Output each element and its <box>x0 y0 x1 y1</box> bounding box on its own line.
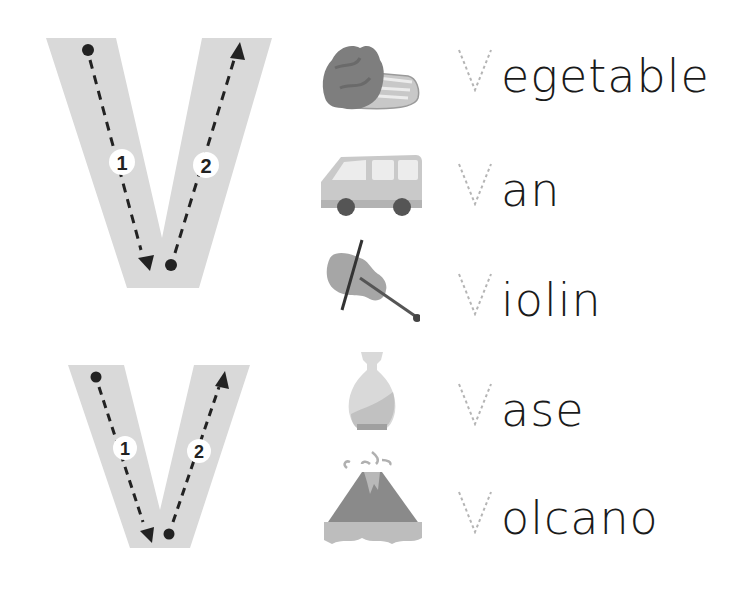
word-vegetable: egetable <box>457 48 710 99</box>
word-remainder: ase <box>501 387 584 433</box>
start-dot-icon <box>165 259 177 271</box>
word-volcano: olcano <box>457 490 659 541</box>
dotted-letter-v <box>457 272 495 316</box>
stroke-number-1: 1 <box>120 439 130 459</box>
word-remainder: olcano <box>501 495 659 541</box>
vase-icon <box>343 352 401 432</box>
start-dot-icon <box>91 372 102 383</box>
word-remainder: an <box>501 167 560 213</box>
stroke-number-2: 2 <box>194 442 204 462</box>
vegetable-icon <box>320 38 420 113</box>
wheel-icon <box>393 198 411 216</box>
van-icon <box>316 152 424 217</box>
dotted-letter-v <box>457 490 495 534</box>
volcano-icon <box>322 450 424 545</box>
small-tracing-letter-v: 1 2 <box>66 365 256 550</box>
large-tracing-letter-v: 1 2 <box>44 38 276 290</box>
start-dot-icon <box>82 44 94 56</box>
stroke-number-2: 2 <box>200 155 211 177</box>
violin-icon <box>320 238 420 323</box>
word-remainder: egetable <box>501 53 710 99</box>
word-violin: iolin <box>457 272 602 323</box>
letter-v-shape <box>46 38 272 288</box>
word-remainder: iolin <box>501 277 602 323</box>
stroke-number-1: 1 <box>116 152 127 174</box>
word-vase: ase <box>457 382 584 433</box>
dotted-letter-v <box>457 382 495 426</box>
word-van: an <box>457 162 560 213</box>
letter-v-shape <box>68 365 250 548</box>
wheel-icon <box>337 198 355 216</box>
start-dot-icon <box>164 529 175 540</box>
dotted-letter-v <box>457 48 495 92</box>
dotted-letter-v <box>457 162 495 206</box>
